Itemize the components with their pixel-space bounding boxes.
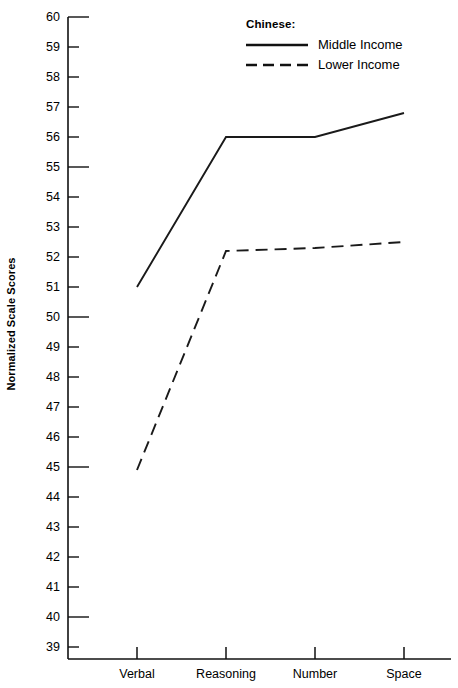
y-axis-tick-label: 40 (26, 611, 60, 624)
y-axis-tick-label: 56 (26, 131, 60, 144)
y-axis-tick-label: 50 (26, 311, 60, 324)
y-axis-tick-label: 42 (26, 551, 60, 564)
y-axis-tick-label: 58 (26, 71, 60, 84)
y-axis-tick-label: 54 (26, 191, 60, 204)
line-chart: Normalized Scale Scores 3940414243444546… (0, 0, 458, 688)
y-axis-tick-label: 55 (26, 161, 60, 174)
solid-line-icon (246, 40, 308, 50)
x-axis-tick-label: Number (293, 668, 337, 681)
x-axis-tick-label: Reasoning (196, 668, 256, 681)
legend-label: Lower Income (318, 58, 400, 71)
legend-item: Lower Income (246, 57, 403, 72)
y-axis-tick-label: 57 (26, 101, 60, 114)
series-line-middle-income (137, 113, 404, 287)
plot-area (0, 0, 458, 688)
y-axis-tick-label: 59 (26, 41, 60, 54)
chart-legend: Chinese: Middle IncomeLower Income (246, 18, 403, 77)
y-axis-tick-label: 47 (26, 401, 60, 414)
y-axis-tick-label: 43 (26, 521, 60, 534)
y-axis-tick-label: 46 (26, 431, 60, 444)
y-axis-tick-label: 45 (26, 461, 60, 474)
legend-label: Middle Income (318, 38, 403, 51)
y-axis-title: Normalized Scale Scores (5, 234, 17, 414)
y-axis-tick-label: 41 (26, 581, 60, 594)
legend-item: Middle Income (246, 37, 403, 52)
y-axis-tick-label: 48 (26, 371, 60, 384)
dashed-line-icon (246, 60, 308, 70)
y-axis-tick-label: 51 (26, 281, 60, 294)
series-line-lower-income (137, 242, 404, 470)
y-axis-tick-label: 60 (26, 11, 60, 24)
y-axis-tick-label: 52 (26, 251, 60, 264)
y-axis-tick-label: 44 (26, 491, 60, 504)
x-axis-tick-label: Verbal (119, 668, 154, 681)
y-axis-tick-label: 53 (26, 221, 60, 234)
legend-title: Chinese: (246, 18, 403, 30)
y-axis-tick-label: 49 (26, 341, 60, 354)
x-axis-tick-label: Space (386, 668, 421, 681)
y-axis-tick-label: 39 (26, 641, 60, 654)
